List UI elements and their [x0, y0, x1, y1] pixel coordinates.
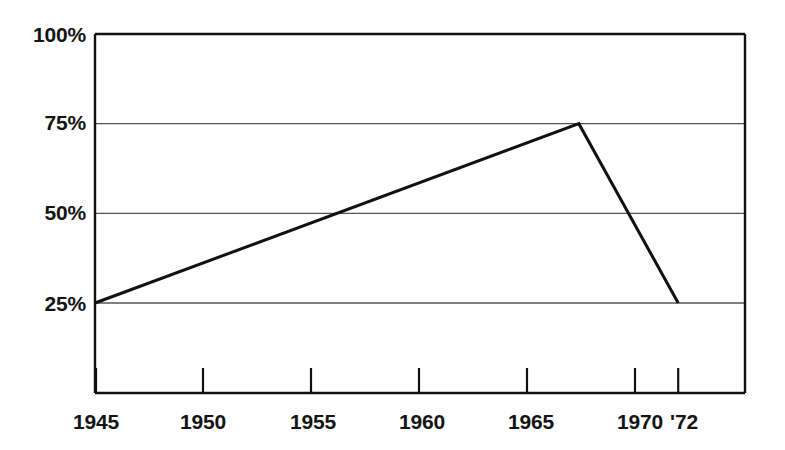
- ytick-label-50: 50%: [18, 202, 86, 223]
- xtick-label-1945: 1945: [53, 411, 139, 432]
- ytick-label-75: 75%: [18, 112, 86, 133]
- xtick-label-1972: '72: [662, 411, 706, 432]
- ytick-label-100: 100%: [18, 24, 86, 45]
- line-chart-plot: [0, 0, 785, 450]
- chart-container: 100% 75% 50% 25% 1945 1950 1955 1960 196…: [0, 0, 785, 450]
- xtick-label-1955: 1955: [270, 411, 356, 432]
- ytick-label-25: 25%: [18, 293, 86, 314]
- xtick-label-1965: 1965: [488, 411, 574, 432]
- xtick-label-1950: 1950: [160, 411, 246, 432]
- xtick-label-1960: 1960: [379, 411, 465, 432]
